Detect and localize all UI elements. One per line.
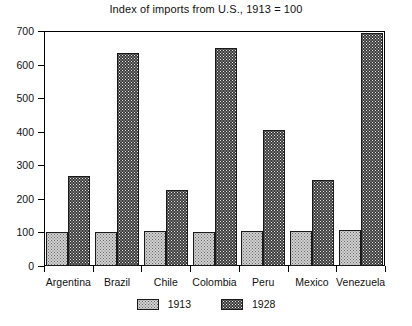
bar-chile-1913: [144, 231, 166, 266]
bar-chile-1928: [166, 190, 188, 266]
bar-colombia-1928: [215, 48, 237, 266]
bars-layer: [0, 0, 412, 326]
bar-brazil-1913: [95, 232, 117, 266]
chart-legend: 19131928: [0, 298, 412, 310]
legend-swatch-1913: [137, 299, 159, 310]
legend-item-1913[interactable]: 1913: [137, 298, 191, 310]
bar-venezuela-1913: [339, 230, 361, 266]
bar-chart: Index of imports from U.S., 1913 = 100 0…: [0, 0, 412, 326]
bar-peru-1928: [263, 130, 285, 266]
bar-brazil-1928: [117, 53, 139, 266]
legend-swatch-1928: [221, 299, 243, 310]
bar-peru-1913: [241, 231, 263, 266]
bar-mexico-1913: [290, 231, 312, 266]
bar-venezuela-1928: [361, 33, 383, 266]
legend-label: 1913: [168, 298, 191, 310]
bar-argentina-1913: [46, 232, 68, 266]
bar-argentina-1928: [68, 176, 90, 266]
bar-colombia-1913: [193, 232, 215, 266]
bar-mexico-1928: [312, 180, 334, 266]
legend-label: 1928: [252, 298, 275, 310]
legend-item-1928[interactable]: 1928: [221, 298, 275, 310]
